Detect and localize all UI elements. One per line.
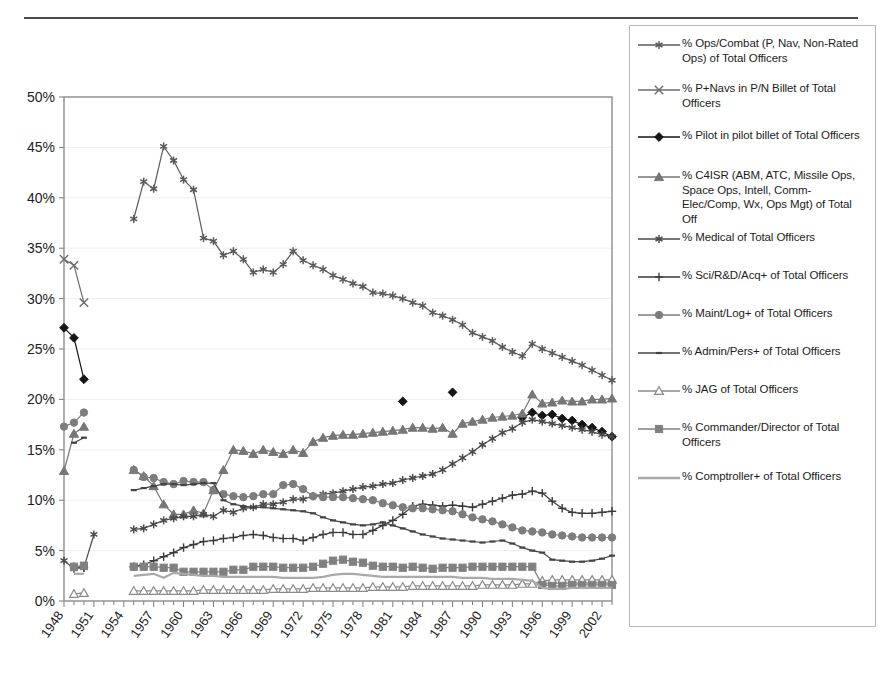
x-axis-tick-label: 1969 xyxy=(247,608,276,640)
legend-item-5[interactable]: % Sci/R&D/Acq+ of Total Officers xyxy=(636,268,869,284)
legend-item-label: % Pilot in pilot billet of Total Officer… xyxy=(682,128,860,143)
x-axis-tick-label: 1978 xyxy=(336,608,365,640)
x-axis-tick-label: 2002 xyxy=(576,608,605,640)
x-axis-tick-label: 1951 xyxy=(67,608,96,640)
legend-item-label: % Maint/Log+ of Total Officers xyxy=(682,306,832,321)
x-axis-tick-label: 1954 xyxy=(97,608,126,640)
legend-item-9[interactable]: % Commander/Director of Total Officers xyxy=(636,420,869,449)
dash-marker-icon xyxy=(636,346,682,360)
chart-plot-area: 0%5%10%15%20%25%30%35%40%45%50%194819511… xyxy=(0,0,625,686)
legend-item-10[interactable]: % Comptroller+ of Total Officers xyxy=(636,469,869,485)
x-axis-tick-label: 1975 xyxy=(307,608,336,640)
x-axis-tick-label: 1966 xyxy=(217,608,246,640)
x-axis-tick-label: 1996 xyxy=(516,608,545,640)
legend-spacer xyxy=(636,112,869,128)
square-marker-icon xyxy=(636,422,682,436)
x-axis-tick-label: 1987 xyxy=(426,608,455,640)
x-axis-tick-label: 1963 xyxy=(187,608,216,640)
legend-spacer xyxy=(636,248,869,268)
triangle-open-marker-icon xyxy=(636,384,682,398)
legend-spacer xyxy=(636,400,869,420)
legend-item-label: % Commander/Director of Total Officers xyxy=(682,420,869,449)
y-axis-tick-label: 5% xyxy=(35,543,55,559)
x-axis-tick-label: 1999 xyxy=(546,608,575,640)
legend-item-label: % JAG of Total Officers xyxy=(682,382,798,397)
legend-item-label: % Admin/Pers+ of Total Officers xyxy=(682,344,841,359)
y-axis-tick-label: 45% xyxy=(27,139,55,155)
legend-item-3[interactable]: % C4ISR (ABM, ATC, Missile Ops, Space Op… xyxy=(636,168,869,226)
circle-marker-icon xyxy=(636,308,682,322)
none-marker-icon xyxy=(636,471,682,485)
legend-item-label: % Ops/Combat (P, Nav, Non-Rated Ops) of … xyxy=(682,36,869,65)
legend-item-8[interactable]: % JAG of Total Officers xyxy=(636,382,869,398)
x-axis-tick-label: 1981 xyxy=(366,608,395,640)
asterisk-marker-icon xyxy=(636,232,682,246)
legend-item-label: % C4ISR (ABM, ATC, Missile Ops, Space Op… xyxy=(682,168,869,226)
x-axis-tick-label: 1990 xyxy=(456,608,485,640)
legend-item-1[interactable]: % P+Navs in P/N Billet of Total Officers xyxy=(636,81,869,110)
y-axis-tick-label: 40% xyxy=(27,190,55,206)
series-8 xyxy=(70,576,617,598)
x-axis-tick-label: 1993 xyxy=(486,608,515,640)
y-axis-tick-label: 0% xyxy=(35,593,55,609)
legend-item-label: % Medical of Total Officers xyxy=(682,230,815,245)
y-axis-tick-label: 20% xyxy=(27,391,55,407)
line-chart: 0%5%10%15%20%25%30%35%40%45%50%194819511… xyxy=(0,0,625,686)
x-marker-icon xyxy=(636,83,682,97)
asterisk-marker-icon xyxy=(636,38,682,52)
y-axis-tick-label: 35% xyxy=(27,240,55,256)
legend-spacer xyxy=(636,67,869,81)
legend-item-label: % Sci/R&D/Acq+ of Total Officers xyxy=(682,268,848,283)
legend-spacer xyxy=(636,286,869,306)
legend-item-2[interactable]: % Pilot in pilot billet of Total Officer… xyxy=(636,128,869,144)
y-axis-tick-label: 50% xyxy=(27,89,55,105)
y-axis-tick-label: 15% xyxy=(27,442,55,458)
legend-item-label: % Comptroller+ of Total Officers xyxy=(682,469,841,484)
legend-spacer xyxy=(636,324,869,344)
diamond-marker-icon xyxy=(636,130,682,144)
legend-item-7[interactable]: % Admin/Pers+ of Total Officers xyxy=(636,344,869,360)
legend-spacer xyxy=(636,362,869,382)
x-axis-tick-label: 1984 xyxy=(396,608,425,640)
legend-spacer xyxy=(636,451,869,469)
y-axis-tick-label: 25% xyxy=(27,341,55,357)
legend-spacer xyxy=(636,146,869,168)
legend-item-6[interactable]: % Maint/Log+ of Total Officers xyxy=(636,306,869,322)
x-axis-tick-label: 1957 xyxy=(127,608,156,640)
chart-legend: % Ops/Combat (P, Nav, Non-Rated Ops) of … xyxy=(629,25,876,627)
x-axis-tick-label: 1948 xyxy=(38,608,67,640)
y-axis-tick-label: 10% xyxy=(27,492,55,508)
legend-item-0[interactable]: % Ops/Combat (P, Nav, Non-Rated Ops) of … xyxy=(636,36,869,65)
plus-marker-icon xyxy=(636,270,682,284)
x-axis-tick-label: 1972 xyxy=(277,608,306,640)
triangle-marker-icon xyxy=(636,170,682,184)
series-0 xyxy=(130,142,615,384)
y-axis-tick-label: 30% xyxy=(27,291,55,307)
legend-item-label: % P+Navs in P/N Billet of Total Officers xyxy=(682,81,869,110)
x-axis-tick-label: 1960 xyxy=(157,608,186,640)
legend-item-4[interactable]: % Medical of Total Officers xyxy=(636,230,869,246)
